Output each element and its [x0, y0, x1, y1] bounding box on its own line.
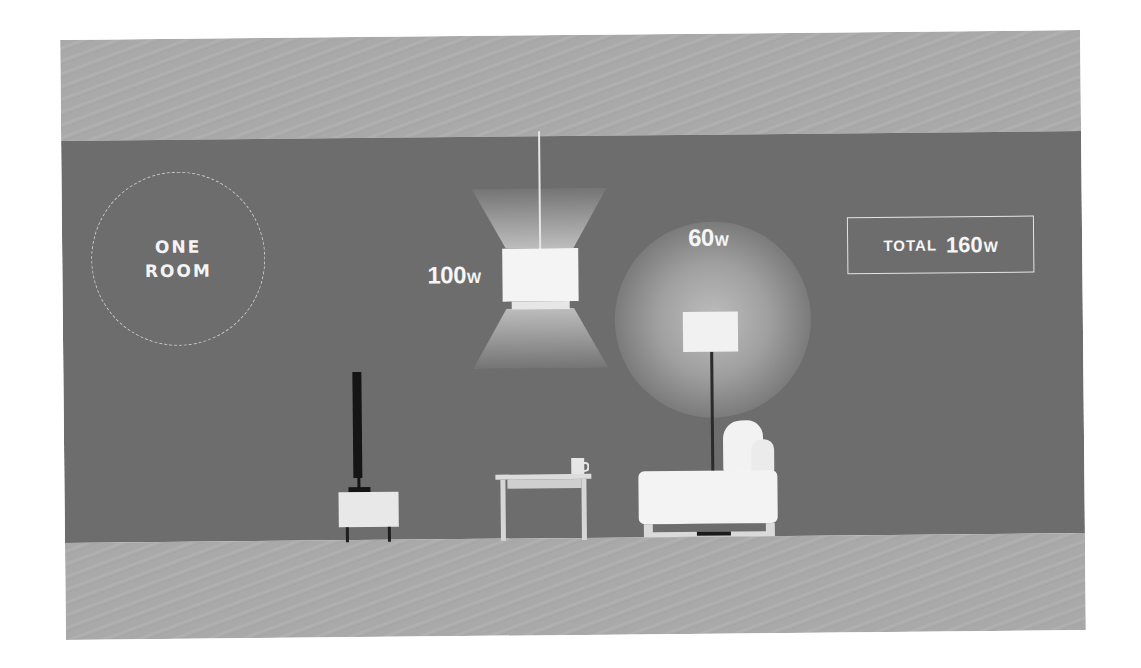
- table-apron: [507, 479, 581, 489]
- pendant-watt-label: 100W: [427, 261, 481, 290]
- floor-lamp-watt-unit: W: [715, 231, 729, 248]
- total-label: TOTAL: [883, 237, 937, 255]
- cabinet-leg-left: [346, 527, 349, 542]
- side-table-icon: [495, 474, 591, 480]
- floor-lamp-foot: [697, 531, 731, 535]
- total-value: 160: [946, 232, 983, 257]
- pendant-lamp-band: [512, 301, 570, 310]
- floor-lamp-icon: [683, 311, 738, 352]
- tv-icon: [352, 372, 362, 478]
- room-badge-line1: ONE: [155, 235, 202, 259]
- total-wattage-box: TOTAL 160W: [847, 216, 1035, 275]
- table-leg-left: [500, 480, 506, 541]
- room-badge-line2: ROOM: [145, 258, 212, 283]
- room-badge: ONE ROOM: [90, 171, 266, 347]
- cabinet-leg-right: [388, 527, 391, 542]
- mug-handle: [583, 462, 589, 472]
- floor-lamp-watt-value: 60: [688, 224, 714, 251]
- sofa-icon: [638, 470, 778, 524]
- total-unit: W: [984, 237, 998, 254]
- table-leg-right: [581, 479, 587, 540]
- floor-lamp-watt-label: 60W: [688, 223, 729, 251]
- tv-cabinet: [338, 492, 398, 528]
- pendant-lamp-icon: [502, 248, 579, 302]
- pendant-watt-unit: W: [467, 269, 481, 286]
- pendant-watt-value: 100: [427, 261, 466, 288]
- sofa-cushion-small: [751, 439, 774, 472]
- ceiling: [60, 30, 1081, 141]
- floor: [65, 533, 1086, 640]
- total-value-group: 160W: [946, 231, 998, 257]
- room-illustration: ONE ROOM 100W 60W TOTAL 160W: [60, 30, 1086, 640]
